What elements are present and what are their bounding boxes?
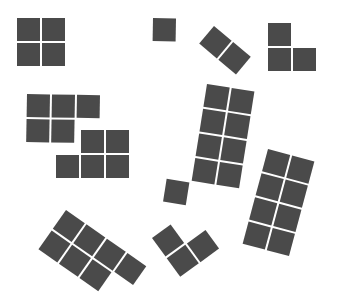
piece-cell [280, 180, 308, 208]
piece-cell [262, 149, 290, 177]
piece-cell [77, 95, 100, 118]
piece-cell [106, 130, 129, 153]
piece-cell [220, 137, 246, 163]
piece-cell [196, 133, 222, 159]
piece-cell [26, 119, 49, 142]
piece-cell [153, 18, 176, 41]
piece-cell [17, 43, 40, 66]
piece-cell [267, 228, 295, 256]
piece-cell [286, 155, 314, 183]
piece-cell [199, 109, 225, 135]
piece-cell [27, 94, 50, 117]
piece-cell [268, 23, 291, 46]
piece-cell [216, 162, 242, 188]
piece-cell [17, 18, 40, 41]
piece-cell [228, 88, 254, 114]
piece-cell [293, 48, 316, 71]
piece-cell [81, 155, 104, 178]
piece-cell [273, 204, 301, 232]
piece-cell [203, 84, 229, 110]
piece-cell [52, 94, 75, 117]
piece-cell [42, 18, 65, 41]
piece-cell [51, 119, 74, 142]
piece-cell [243, 221, 271, 249]
piece-cell [163, 179, 189, 205]
piece-cell [192, 158, 218, 184]
polyomino-diagram [0, 0, 338, 302]
piece-cell [249, 197, 277, 225]
piece-cell [224, 113, 250, 139]
piece-cell [268, 48, 291, 71]
piece-cell [81, 130, 104, 153]
piece-cell [106, 155, 129, 178]
piece-cell [56, 155, 79, 178]
piece-cell [256, 173, 284, 201]
piece-cell [42, 43, 65, 66]
